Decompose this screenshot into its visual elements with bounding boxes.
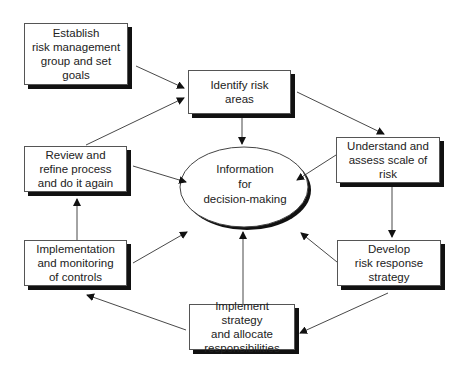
node-label: Develop risk response strategy bbox=[355, 242, 423, 284]
node-label: Understand and assess scale of risk bbox=[347, 139, 429, 181]
node-review-refine: Review and refine process and do it agai… bbox=[24, 146, 127, 192]
node-develop-response-strategy: Develop risk response strategy bbox=[337, 240, 441, 286]
arrow-establish-to-identify bbox=[136, 66, 184, 88]
arrow-monitoring-to-center bbox=[133, 232, 187, 263]
node-implementation-monitoring: Implementation and monitoring of control… bbox=[24, 240, 127, 286]
arrow-identify-to-understand bbox=[297, 92, 384, 134]
arrow-develop-to-implement bbox=[300, 293, 388, 333]
node-label: Establish risk management group and set … bbox=[32, 26, 120, 82]
arrow-develop-to-center bbox=[301, 233, 337, 262]
node-label: Implement strategy and allocate responsi… bbox=[194, 299, 290, 355]
risk-management-cycle-diagram: Establish risk management group and set … bbox=[0, 0, 471, 377]
node-label: Identify risk areas bbox=[210, 78, 268, 106]
center-label: Information for decision-making bbox=[180, 162, 310, 207]
arrow-review-to-center bbox=[133, 166, 186, 182]
node-implement-strategy: Implement strategy and allocate responsi… bbox=[189, 304, 295, 350]
node-label: Review and refine process and do it agai… bbox=[38, 148, 113, 190]
node-identify-risk-areas: Identify risk areas bbox=[188, 70, 291, 114]
node-label: Implementation and monitoring of control… bbox=[36, 242, 115, 284]
arrow-review-to-identify bbox=[86, 98, 184, 145]
arrow-implement-to-monitoring bbox=[87, 295, 186, 330]
node-understand-assess-risk: Understand and assess scale of risk bbox=[336, 137, 440, 183]
node-establish-risk-group: Establish risk management group and set … bbox=[24, 23, 128, 85]
